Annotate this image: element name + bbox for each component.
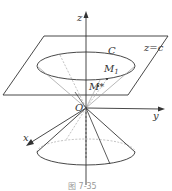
point-m1-label: M1	[103, 63, 119, 76]
plane-label: z=c	[143, 42, 164, 53]
y-axis-arrow-icon	[158, 107, 165, 112]
y-axis-label: y	[152, 110, 159, 121]
z-axis-arrow-icon	[84, 11, 89, 18]
cone-diagram: z z=c C M1 M* O y x 图 7-35	[0, 0, 172, 191]
lower-cone-gen-2	[86, 108, 110, 164]
figure-caption: 图 7-35	[68, 182, 97, 191]
y-axis	[86, 108, 160, 109]
origin-label: O	[75, 102, 83, 113]
curve-c-label: C	[108, 45, 116, 56]
upper-cone-gen-1	[60, 55, 86, 108]
lower-cone-right-edge	[86, 108, 135, 152]
point-mstar-label: M*	[88, 81, 104, 92]
lower-cone-left-edge	[37, 108, 86, 152]
z-axis-label: z	[76, 12, 83, 23]
point-m1-dot	[106, 78, 108, 80]
x-axis	[30, 108, 86, 143]
x-axis-label: x	[23, 132, 29, 143]
